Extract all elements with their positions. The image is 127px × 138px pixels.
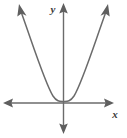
parabola-graph-figure: y x bbox=[0, 0, 127, 138]
coordinate-plane-svg: y x bbox=[0, 0, 127, 138]
x-axis-label: x bbox=[111, 108, 118, 120]
y-axis-label: y bbox=[49, 3, 56, 15]
